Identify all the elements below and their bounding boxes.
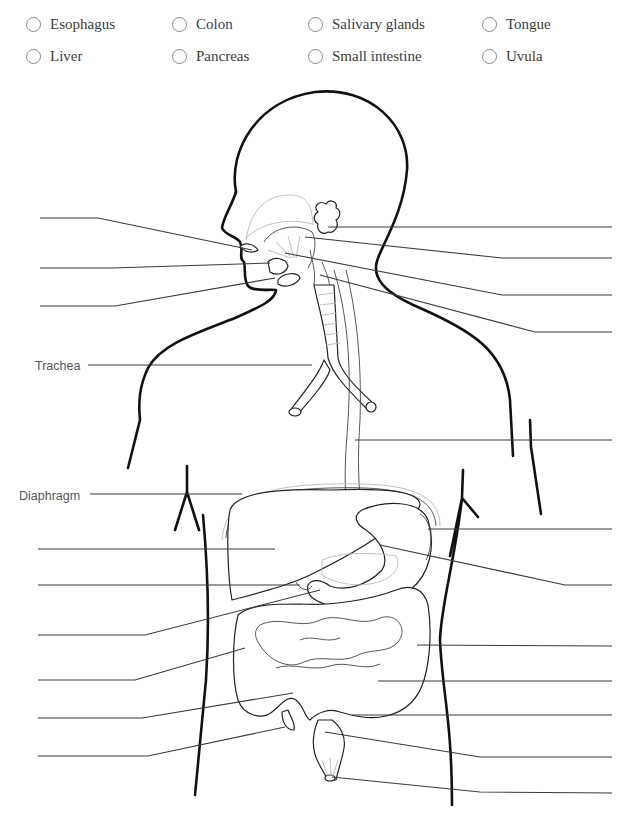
- blank-l7-drop-target[interactable]: [38, 648, 245, 680]
- tongue-icon: [268, 259, 288, 274]
- blank-l9-drop-target[interactable]: [38, 727, 285, 756]
- blank-r8-drop-target[interactable]: [417, 645, 612, 646]
- blank-r11-drop-target[interactable]: [325, 732, 612, 757]
- torso-right-upper: [530, 420, 541, 514]
- label-diaphragm: Diaphragm: [19, 489, 80, 503]
- blank-l3-drop-target[interactable]: [40, 278, 275, 306]
- blank-r2-drop-target[interactable]: [305, 237, 612, 258]
- submandibular-gland-icon: [278, 274, 300, 286]
- blank-r12-drop-target[interactable]: [332, 777, 612, 793]
- label-trachea: Trachea: [35, 359, 80, 373]
- bronchus-left-icon: [292, 360, 330, 414]
- trachea-esophagus: [289, 270, 376, 500]
- digestive-system-diagram: [0, 0, 625, 827]
- trachea-icon: [314, 285, 374, 408]
- blank-l1-drop-target[interactable]: [40, 218, 252, 250]
- blank-l2-drop-target[interactable]: [40, 263, 270, 268]
